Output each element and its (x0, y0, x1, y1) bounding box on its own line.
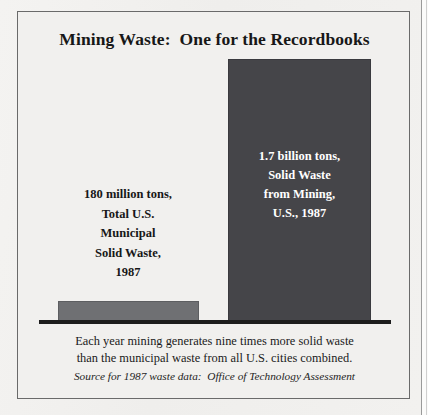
figure-caption-line-2: than the municipal waste from all U.S. c… (36, 350, 393, 367)
scanned-page: Mining Waste: One for the Recordbooks 1.… (0, 0, 428, 415)
bar-municipal-waste (58, 301, 199, 321)
figure-source-note: Source for 1987 waste data: Office of Te… (36, 370, 393, 382)
figure-caption-line-1: Each year mining generates nine times mo… (36, 333, 393, 350)
figure-frame: Mining Waste: One for the Recordbooks 1.… (17, 11, 410, 399)
page-edge-line-outer (426, 0, 427, 415)
bar-label-municipal-line-2: Total U.S. (42, 205, 214, 225)
bar-label-municipal-line-3: Municipal (42, 224, 214, 244)
bar-label-municipal-line-1: 180 million tons, (42, 185, 214, 205)
bar-label-mining-line-3: from Mining, (228, 185, 371, 204)
bar-label-municipal-line-4: Solid Waste, (42, 244, 214, 264)
bar-label-mining-line-4: U.S., 1987 (228, 204, 371, 223)
bar-label-mining-line-1: 1.7 billion tons, (228, 147, 371, 166)
bar-label-mining: 1.7 billion tons, Solid Waste from Minin… (228, 147, 371, 223)
figure-caption: Each year mining generates nine times mo… (36, 333, 393, 366)
chart-baseline (39, 320, 391, 324)
bar-label-mining-line-2: Solid Waste (228, 166, 371, 185)
bar-label-municipal-line-5: 1987 (42, 263, 214, 283)
page-edge-line (421, 0, 422, 415)
bar-label-municipal: 180 million tons, Total U.S. Municipal S… (42, 185, 214, 283)
